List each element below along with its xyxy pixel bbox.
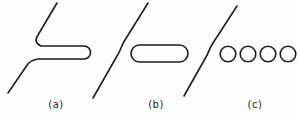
jogged-fault-trace-c — [184, 6, 237, 96]
round-hole-c-3 — [260, 46, 276, 62]
panel-c — [184, 6, 296, 96]
round-hole-c-4 — [280, 46, 296, 62]
panel-label-b: (b) — [148, 99, 164, 110]
figure: (a) (b) (c) — [0, 0, 297, 117]
round-hole-c-1 — [220, 46, 236, 62]
fault-trace-with-open-tongue-a — [8, 3, 91, 93]
elongate-cavity-b — [131, 45, 188, 62]
panel-b — [93, 3, 188, 98]
panel-a — [8, 3, 91, 93]
panel-label-a: (a) — [48, 99, 63, 110]
round-hole-c-2 — [240, 46, 256, 62]
jogged-fault-trace-b — [93, 3, 148, 98]
figure-canvas: (a) (b) (c) — [0, 0, 297, 117]
panel-label-c: (c) — [248, 99, 263, 110]
